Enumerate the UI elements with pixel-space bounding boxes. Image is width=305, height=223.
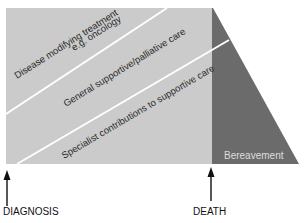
- diagnosis-arrow-icon: [4, 170, 11, 206]
- death-label: DEATH: [193, 206, 226, 217]
- bereavement-region: [212, 8, 299, 164]
- death-arrow-icon: [208, 167, 215, 201]
- diagnosis-label: DIAGNOSIS: [3, 206, 59, 217]
- care-continuum-diagram: Disease modifying treatment e.g. oncolog…: [0, 0, 305, 223]
- bereavement-label: Bereavement: [224, 150, 284, 161]
